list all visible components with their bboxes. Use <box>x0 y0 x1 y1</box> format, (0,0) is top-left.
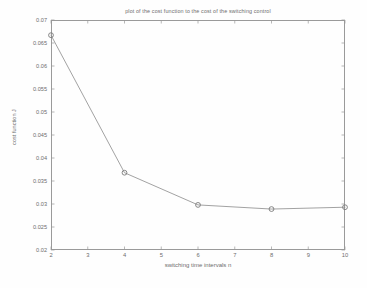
x-tick-label: 10 <box>342 252 348 258</box>
x-tick-label: 9 <box>307 252 310 258</box>
y-tick-label: 0.02 <box>36 247 47 253</box>
y-tick-label: 0.025 <box>33 224 47 230</box>
y-tick-label: 0.04 <box>36 155 47 161</box>
y-tick-label: 0.06 <box>36 63 47 69</box>
x-tick-label: 6 <box>196 252 199 258</box>
y-tick-label: 0.07 <box>36 17 47 23</box>
x-axis-label: switching time intervals n <box>51 262 345 268</box>
y-tick-label: 0.05 <box>36 109 47 115</box>
y-tick-label: 0.055 <box>33 86 47 92</box>
figure-canvas: plot of the cost function to the cost of… <box>0 0 367 288</box>
x-tick-label: 2 <box>49 252 52 258</box>
x-tick-label: 5 <box>160 252 163 258</box>
x-tick-label: 3 <box>86 252 89 258</box>
y-tick-label: 0.045 <box>33 132 47 138</box>
y-tick-label: 0.03 <box>36 201 47 207</box>
plot-area <box>51 20 345 250</box>
y-tick-label: 0.065 <box>33 40 47 46</box>
y-axis-label: cost function J <box>11 87 17 167</box>
x-tick-label: 8 <box>270 252 273 258</box>
x-tick-label: 7 <box>233 252 236 258</box>
chart-title: plot of the cost function to the cost of… <box>51 8 345 14</box>
y-axis-tick-labels: 0.020.0250.030.0350.040.0450.050.0550.06… <box>0 20 47 250</box>
x-tick-label: 4 <box>123 252 126 258</box>
y-tick-label: 0.035 <box>33 178 47 184</box>
